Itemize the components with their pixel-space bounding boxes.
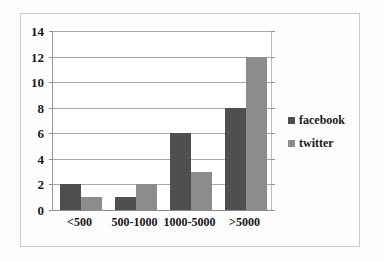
bar-facebook — [115, 197, 136, 210]
y-axis-tick — [271, 210, 275, 211]
gridline — [53, 210, 271, 211]
legend-entry-twitter: twitter — [288, 137, 345, 149]
x-axis-tick-label: 500-1000 — [107, 216, 162, 228]
bar-group — [163, 31, 218, 210]
legend-label: facebook — [299, 114, 345, 126]
y-axis-tick — [49, 210, 53, 211]
x-axis-tick-label: >5000 — [217, 216, 272, 228]
bar-twitter — [81, 197, 102, 210]
bar-chart-figure: 02468101214 <500500-10001000-5000>5000 f… — [0, 0, 384, 261]
bar-twitter — [191, 172, 212, 210]
legend-label: twitter — [299, 137, 334, 149]
y-axis-tick-label: 4 — [18, 153, 44, 166]
bar-group — [218, 31, 273, 210]
bar-facebook — [170, 133, 191, 210]
y-axis-tick-label: 10 — [18, 76, 44, 89]
y-axis-tick-label: 6 — [18, 127, 44, 140]
bar-group — [53, 31, 108, 210]
y-axis-tick-label: 12 — [18, 51, 44, 64]
y-axis-tick-label: 8 — [18, 102, 44, 115]
chart-legend: facebooktwitter — [288, 114, 345, 149]
legend-entry-facebook: facebook — [288, 114, 345, 126]
bars-layer — [53, 31, 271, 210]
y-axis-tick-label: 0 — [18, 204, 44, 217]
y-axis-tick-label: 2 — [18, 178, 44, 191]
plot-area — [52, 31, 272, 210]
legend-swatch-icon — [288, 140, 295, 147]
bar-group — [108, 31, 163, 210]
bar-facebook — [225, 108, 246, 210]
x-axis-tick-label: <500 — [52, 216, 107, 228]
legend-swatch-icon — [288, 117, 295, 124]
x-axis-tick-label: 1000-5000 — [162, 216, 217, 228]
bar-facebook — [60, 184, 81, 210]
y-axis-tick-label: 14 — [18, 25, 44, 38]
bar-twitter — [246, 57, 267, 210]
bar-twitter — [136, 184, 157, 210]
